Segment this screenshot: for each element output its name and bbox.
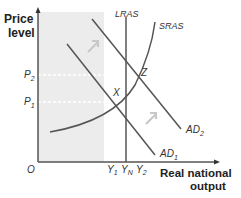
x-axis-title-line2: output — [190, 180, 226, 192]
plot-background — [38, 12, 104, 162]
y1-label: Y1 — [107, 164, 118, 176]
ad2-label: AD2 — [185, 124, 204, 137]
y-axis-title-line1: Price — [4, 12, 34, 26]
lras-label: LRAS — [115, 9, 139, 19]
origin-label: O — [27, 164, 35, 175]
x-axis-title-line1: Real national — [160, 167, 232, 179]
y2-label: Y2 — [136, 164, 147, 176]
shift-arrow-bottom — [146, 113, 156, 124]
y-axis-title-line2: level — [8, 26, 35, 40]
point-z-label: Z — [140, 67, 148, 78]
p2-label: P2 — [24, 69, 35, 82]
yn-label: YN — [121, 164, 134, 176]
point-x-label: X — [112, 87, 120, 98]
p1-label: P1 — [24, 96, 35, 109]
sras-label: SRAS — [159, 21, 184, 31]
ad-as-diagram: Price level Real national output O LRAS … — [0, 0, 241, 198]
y-axis-arrow-icon — [36, 7, 41, 13]
ad1-label: AD1 — [159, 148, 178, 161]
x-axis-arrow-icon — [214, 160, 220, 165]
